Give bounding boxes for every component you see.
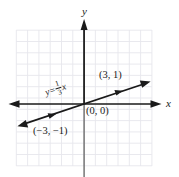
marker-point-3-1 (114, 90, 123, 96)
marker-point-neg3-neg1 (48, 113, 57, 119)
y-axis-arrow-icon (81, 19, 88, 30)
x-axis-label: x (166, 98, 171, 109)
point-label-0-0: (0, 0) (86, 106, 109, 117)
line-arrow-left-icon (17, 120, 28, 127)
y-axis-label: y (82, 6, 87, 17)
coordinate-plane (0, 0, 179, 177)
point-label-3-1: (3, 1) (99, 70, 122, 81)
point-label-neg3-neg1: (−3, −1) (33, 126, 68, 137)
x-axis-arrow-right-icon (151, 100, 162, 108)
x-axis-arrow-left-icon (9, 100, 20, 108)
graph-figure: y x y=13x (3, 1) (0, 0) (−3, −1) (0, 0, 179, 177)
